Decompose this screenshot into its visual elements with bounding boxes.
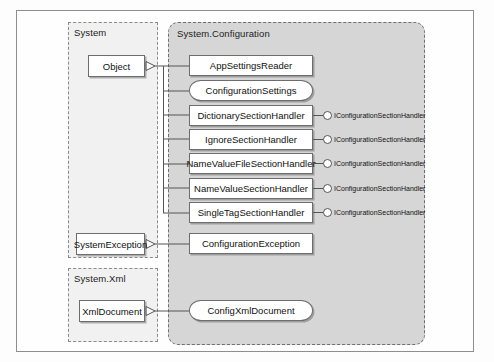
package-system-configuration-label: System.Configuration bbox=[177, 28, 270, 39]
interface-label: IConfigurationSectionHandler bbox=[334, 136, 425, 143]
class-node-dictionary-section-handler[interactable]: DictionarySectionHandler bbox=[189, 105, 313, 126]
class-node-app-settings-reader[interactable]: AppSettingsReader bbox=[189, 55, 313, 76]
class-node-object[interactable]: Object bbox=[88, 55, 145, 77]
interface-label: IConfigurationSectionHandler bbox=[334, 160, 425, 167]
class-node-name-value-section-handler-label: NameValueSectionHandler bbox=[194, 183, 308, 194]
class-node-xml-document-label: XmlDocument bbox=[82, 306, 142, 317]
interface-ball-icon bbox=[323, 159, 332, 168]
interface-lollipop-single-tag-section-handler[interactable]: IConfigurationSectionHandler bbox=[313, 206, 425, 220]
interface-stem bbox=[313, 212, 323, 213]
interface-lollipop-name-value-file-section-handler[interactable]: IConfigurationSectionHandler bbox=[313, 157, 425, 171]
interface-ball-icon bbox=[323, 184, 332, 193]
interface-ball-icon bbox=[323, 111, 332, 120]
class-node-configuration-settings[interactable]: ConfigurationSettings bbox=[189, 80, 313, 101]
class-node-system-exception-label: SystemException bbox=[74, 239, 147, 250]
interface-label: IConfigurationSectionHandler bbox=[334, 185, 425, 192]
interface-stem bbox=[313, 115, 323, 116]
interface-label: IConfigurationSectionHandler bbox=[334, 112, 425, 119]
class-node-configuration-settings-label: ConfigurationSettings bbox=[206, 85, 297, 96]
interface-lollipop-name-value-section-handler[interactable]: IConfigurationSectionHandler bbox=[313, 182, 425, 196]
class-diagram: System System.Xml System.Configuration O… bbox=[0, 0, 494, 362]
class-node-ignore-section-handler[interactable]: IgnoreSectionHandler bbox=[189, 129, 313, 150]
class-node-single-tag-section-handler[interactable]: SingleTagSectionHandler bbox=[189, 202, 313, 223]
interface-stem bbox=[313, 163, 323, 164]
interface-ball-icon bbox=[323, 135, 332, 144]
class-node-xml-document[interactable]: XmlDocument bbox=[79, 300, 145, 322]
interface-stem bbox=[313, 188, 323, 189]
interface-ball-icon bbox=[323, 208, 332, 217]
interface-label: IConfigurationSectionHandler bbox=[334, 209, 425, 216]
class-node-object-label: Object bbox=[103, 61, 130, 72]
class-node-system-exception[interactable]: SystemException bbox=[76, 233, 145, 255]
interface-stem bbox=[313, 139, 323, 140]
interface-lollipop-ignore-section-handler[interactable]: IConfigurationSectionHandler bbox=[313, 133, 425, 147]
interface-lollipop-dictionary-section-handler[interactable]: IConfigurationSectionHandler bbox=[313, 109, 425, 123]
class-node-config-xml-document-label: ConfigXmlDocument bbox=[207, 305, 294, 316]
package-system-label: System bbox=[74, 27, 106, 38]
class-node-configuration-exception-label: ConfigurationException bbox=[202, 238, 300, 249]
package-system-xml-label: System.Xml bbox=[74, 273, 126, 284]
class-node-ignore-section-handler-label: IgnoreSectionHandler bbox=[205, 134, 297, 145]
class-node-configuration-exception[interactable]: ConfigurationException bbox=[189, 233, 313, 254]
class-node-name-value-file-section-handler-label: NameValueFileSectionHandler bbox=[186, 158, 315, 169]
class-node-app-settings-reader-label: AppSettingsReader bbox=[210, 60, 292, 71]
class-node-name-value-section-handler[interactable]: NameValueSectionHandler bbox=[189, 178, 313, 199]
class-node-dictionary-section-handler-label: DictionarySectionHandler bbox=[197, 110, 304, 121]
class-node-config-xml-document[interactable]: ConfigXmlDocument bbox=[189, 300, 313, 321]
class-node-single-tag-section-handler-label: SingleTagSectionHandler bbox=[198, 207, 305, 218]
class-node-name-value-file-section-handler[interactable]: NameValueFileSectionHandler bbox=[189, 153, 313, 174]
